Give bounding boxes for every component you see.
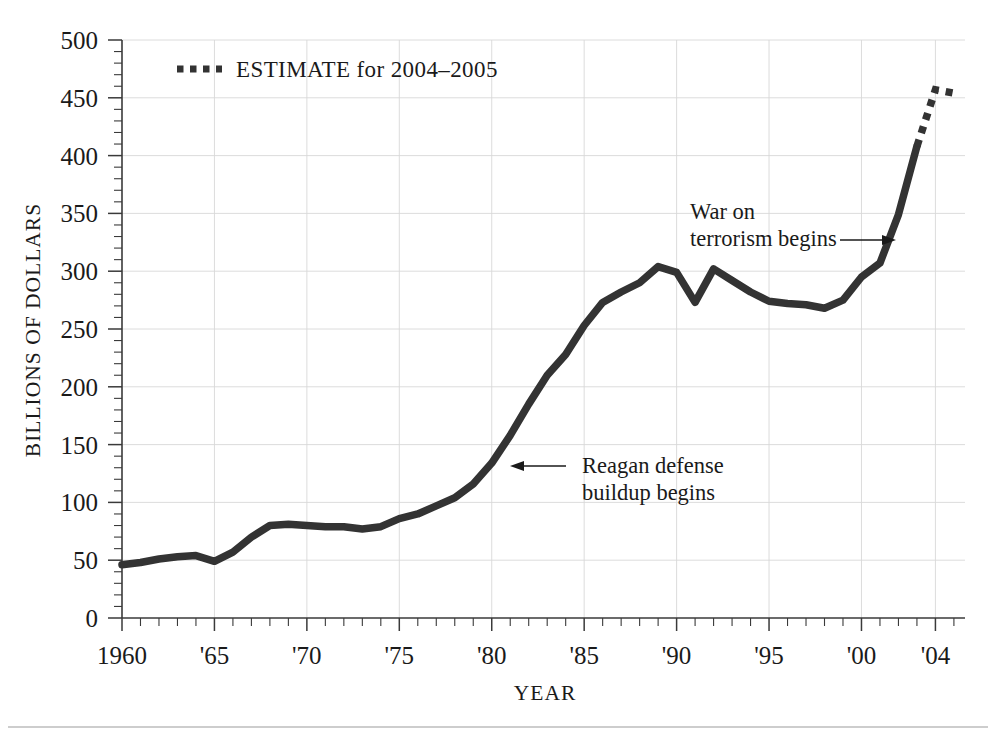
x-tick-label: '75 [385, 642, 415, 669]
x-tick-label: '04 [921, 642, 951, 669]
y-tick-label: 150 [61, 432, 99, 459]
x-tick-label: '80 [477, 642, 507, 669]
y-tick-label: 300 [61, 258, 99, 285]
y-tick-label: 100 [61, 489, 99, 516]
y-tick-label: 50 [73, 547, 98, 574]
x-axis-title: YEAR [514, 681, 577, 705]
x-tick-label: '00 [847, 642, 877, 669]
y-tick-label: 250 [61, 316, 99, 343]
x-tick-label: '65 [200, 642, 230, 669]
chart-figure: 050100150200250300350400450500 1960'65'7… [0, 0, 996, 742]
chart-background [0, 0, 996, 742]
reagan-annotation-line1: Reagan defense [582, 453, 724, 478]
y-axis-title: BILLIONS OF DOLLARS [21, 203, 45, 457]
y-tick-label: 450 [61, 85, 99, 112]
x-tick-label: '85 [569, 642, 599, 669]
y-tick-label: 350 [61, 200, 99, 227]
x-tick-label: 1960 [97, 642, 147, 669]
reagan-annotation-line2: buildup begins [582, 480, 715, 505]
x-tick-label: '70 [292, 642, 322, 669]
y-tick-label: 0 [86, 605, 99, 632]
terrorism-annotation-line1: War on [690, 199, 755, 224]
y-tick-label: 200 [61, 374, 99, 401]
x-tick-label: '90 [662, 642, 692, 669]
legend-label-estimate: ESTIMATE for 2004–2005 [236, 57, 498, 82]
y-tick-label: 500 [61, 27, 99, 54]
y-tick-label: 400 [61, 143, 99, 170]
x-tick-label: '95 [754, 642, 784, 669]
defense-spending-line-chart: 050100150200250300350400450500 1960'65'7… [0, 0, 996, 742]
terrorism-annotation-line2: terrorism begins [690, 226, 837, 251]
